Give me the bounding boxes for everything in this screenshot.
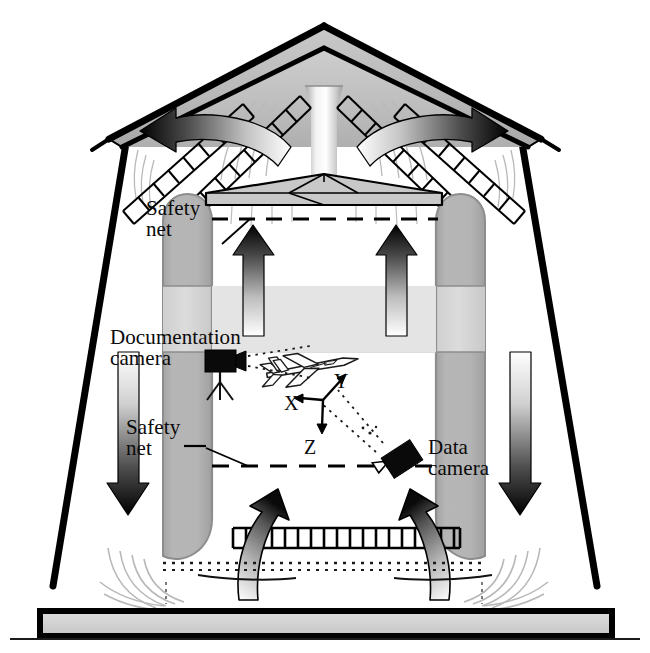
label-axis-z: Z: [304, 437, 316, 457]
bottom-jet-left: [238, 489, 289, 600]
label-safety-net-lower: Safety net: [126, 417, 180, 460]
label-data-camera: Data camera: [428, 437, 489, 480]
base-slab: [10, 611, 640, 639]
label-safety-net-upper: Safety net: [146, 198, 200, 241]
label-documentation-camera: Documentation camera: [110, 327, 241, 370]
wind-tunnel-figure: Safety net Safety net Documentation came…: [0, 0, 650, 653]
label-axis-x: X: [284, 393, 299, 413]
flow-streamlines-diffuser: [231, 206, 417, 226]
bottom-jet-arrows: [238, 489, 450, 600]
label-axis-y: Y: [334, 371, 349, 391]
right-flow-column: [436, 194, 485, 559]
downflow-arrow-right: [499, 352, 541, 515]
tunnel-diagram-svg: [0, 0, 650, 653]
left-flow-column: [163, 194, 212, 559]
data-camera-icon: [320, 390, 423, 484]
diffuser-plate: [206, 174, 442, 205]
